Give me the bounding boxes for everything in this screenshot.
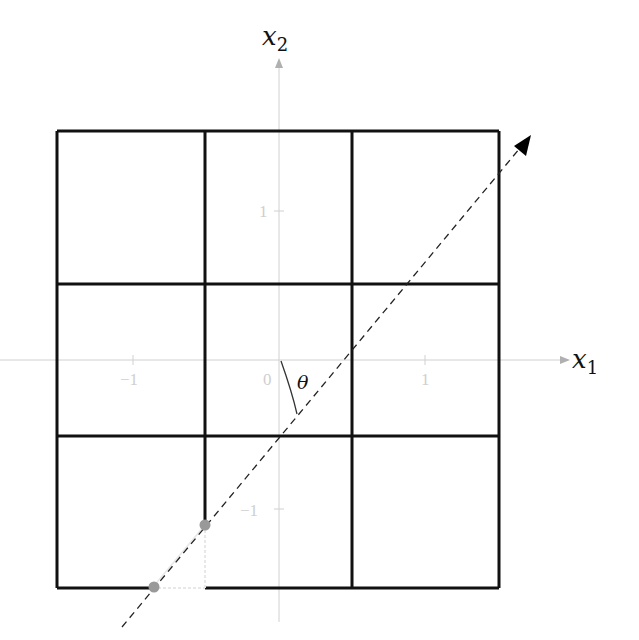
- y-tick-label-neg1: −1: [240, 501, 258, 520]
- faded-segments: [153, 525, 205, 588]
- dashed-direction-line: [122, 148, 520, 627]
- x1-label: x1: [572, 344, 598, 378]
- x-tick-label-neg1: −1: [120, 370, 138, 389]
- point-upper: [200, 520, 211, 531]
- x-tick-label-1: 1: [421, 370, 430, 389]
- theta-arc: [281, 361, 297, 414]
- diagram-canvas: −1 0 1 1 −1 x1 x2 θ: [0, 0, 639, 640]
- faded-diagonal-segment: [153, 525, 205, 587]
- y-tick-label-1: 1: [259, 202, 268, 221]
- point-lower: [149, 582, 160, 593]
- tick-labels: −1 0 1 1 −1: [120, 202, 430, 520]
- x-tick-label-0: 0: [263, 370, 272, 389]
- theta-label: θ: [297, 371, 309, 393]
- x2-label: x2: [262, 21, 288, 55]
- angle-theta: θ: [281, 361, 309, 414]
- axis-labels: x1 x2: [262, 21, 598, 378]
- axes: [0, 60, 568, 622]
- direction-line: [122, 135, 531, 627]
